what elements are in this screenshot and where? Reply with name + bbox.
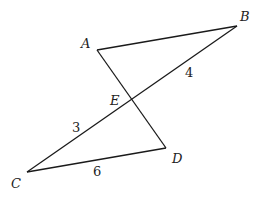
point-label-b: B <box>239 9 250 24</box>
point-label-e: E <box>109 93 120 108</box>
segment-cb <box>27 26 237 172</box>
point-label-a: A <box>80 36 90 51</box>
geometry-diagram: A B E D C 4 3 6 <box>0 0 256 200</box>
segment-ab <box>97 26 237 50</box>
length-label-eb: 4 <box>185 65 193 80</box>
point-label-d: D <box>171 151 183 166</box>
point-label-c: C <box>11 176 21 191</box>
length-label-ce: 3 <box>72 120 80 135</box>
length-label-cd: 6 <box>93 164 101 179</box>
